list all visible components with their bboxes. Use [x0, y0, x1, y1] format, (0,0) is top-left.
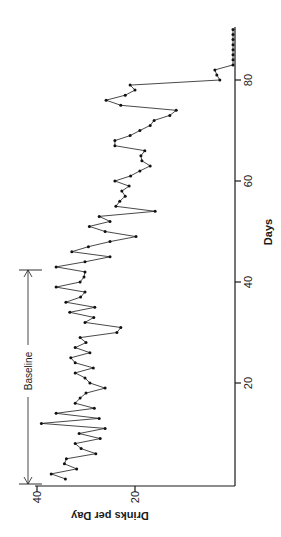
data-point [74, 371, 77, 374]
data-point [70, 250, 73, 253]
data-point [129, 174, 132, 177]
data-point [85, 341, 88, 344]
days-tick-label: 20 [242, 377, 254, 389]
data-point [74, 442, 77, 445]
data-point [98, 215, 101, 218]
data-point [154, 210, 157, 213]
data-point [109, 255, 112, 258]
data-point [124, 94, 127, 97]
data-point [69, 356, 72, 359]
data-point [232, 33, 235, 36]
data-point [168, 114, 171, 117]
data-point [68, 311, 71, 314]
data-point [232, 48, 235, 51]
data-point [65, 457, 68, 460]
data-point [74, 346, 77, 349]
data-point [75, 467, 78, 470]
data-point [128, 185, 131, 188]
data-point [79, 296, 82, 299]
data-point [232, 63, 235, 66]
data-point [84, 260, 87, 263]
drinks-axis-label: Drinks per Day [70, 510, 149, 522]
data-point [99, 437, 102, 440]
data-point [113, 180, 116, 183]
data-point [84, 291, 87, 294]
data-point [64, 301, 67, 304]
data-point [124, 195, 127, 198]
data-point [135, 235, 138, 238]
data-point [93, 306, 96, 309]
data-point [50, 472, 53, 475]
data-point [104, 387, 107, 390]
chart-axes [35, 27, 235, 486]
data-point [175, 109, 178, 112]
data-point [105, 99, 108, 102]
data-point [80, 447, 83, 450]
data-point [138, 169, 141, 172]
data-point [232, 53, 235, 56]
data-point [109, 220, 112, 223]
data-point [93, 407, 96, 410]
days-tick-label: 40 [242, 276, 254, 288]
drinks-per-day-chart: 20406080 2040 Days Drinks per Day Baseli… [0, 0, 281, 537]
baseline-label: Baseline [23, 351, 34, 390]
data-point [113, 144, 116, 147]
data-point [134, 89, 137, 92]
data-point [104, 230, 107, 233]
data-point [88, 225, 91, 228]
data-point [118, 200, 121, 203]
data-point [98, 417, 101, 420]
data-point [79, 336, 82, 339]
data-point [64, 477, 67, 480]
baseline-bracket: Baseline [19, 270, 42, 484]
data-point [120, 190, 123, 193]
data-point [104, 427, 107, 430]
data-point [94, 452, 97, 455]
data-point [213, 68, 216, 71]
data-point [78, 432, 81, 435]
data-point [218, 79, 221, 82]
data-point [149, 124, 152, 127]
days-axis-label: Days [262, 219, 274, 245]
data-point [85, 392, 88, 395]
data-point [119, 326, 122, 329]
data-point [84, 270, 87, 273]
days-tick-label: 60 [242, 175, 254, 187]
data-point [119, 104, 122, 107]
drinks-series-line [41, 30, 233, 479]
data-point [87, 245, 90, 248]
data-point [149, 164, 152, 167]
days-tick-label: 80 [242, 74, 254, 86]
data-point [83, 276, 86, 279]
data-point [115, 331, 118, 334]
drinks-tick-label: 40 [31, 491, 43, 503]
data-point [215, 73, 218, 76]
data-point [55, 412, 58, 415]
drinks-tick-label: 20 [129, 491, 141, 503]
data-point [129, 134, 132, 137]
drinks-series-markers [40, 28, 235, 480]
data-point [232, 43, 235, 46]
data-point [114, 205, 117, 208]
data-point [92, 316, 95, 319]
days-ticks: 20406080 [235, 74, 254, 389]
data-point [138, 129, 141, 132]
data-point [143, 149, 146, 152]
data-point [74, 361, 77, 364]
data-point [40, 422, 43, 425]
data-point [232, 28, 235, 31]
data-point [84, 376, 87, 379]
drinks-ticks: 2040 [31, 486, 141, 503]
data-point [55, 286, 58, 289]
data-point [79, 281, 82, 284]
data-point [232, 58, 235, 61]
data-point [92, 366, 95, 369]
data-point [140, 159, 143, 162]
data-point [55, 265, 58, 268]
data-point [113, 139, 116, 142]
data-point [153, 119, 156, 122]
data-point [84, 321, 87, 324]
data-point [109, 240, 112, 243]
data-point [139, 154, 142, 157]
data-point [88, 351, 91, 354]
